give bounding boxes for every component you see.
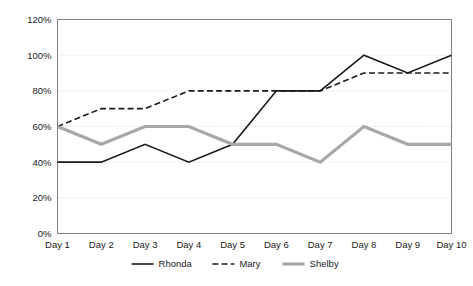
- y-tick-label: 20%: [32, 192, 52, 203]
- legend-label-rhonda: Rhonda: [159, 258, 193, 269]
- x-tick-label: Day 2: [89, 239, 114, 250]
- y-tick-label: 100%: [27, 50, 52, 61]
- line-chart: 0%20%40%60%80%100%120% Day 1Day 2Day 3Da…: [0, 0, 473, 286]
- x-tick-label: Day 9: [395, 239, 420, 250]
- x-tick-label: Day 1: [45, 239, 70, 250]
- chart-container: 0%20%40%60%80%100%120% Day 1Day 2Day 3Da…: [0, 0, 473, 286]
- y-tick-label: 80%: [32, 85, 52, 96]
- x-tick-label: Day 8: [352, 239, 377, 250]
- y-tick-label: 0%: [38, 228, 52, 239]
- x-tick-label: Day 7: [308, 239, 333, 250]
- y-tick-label: 40%: [32, 157, 52, 168]
- x-tick-label: Day 10: [436, 239, 466, 250]
- legend-label-shelby: Shelby: [310, 258, 339, 269]
- x-tick-label: Day 4: [176, 239, 201, 250]
- y-tick-label: 120%: [27, 14, 52, 25]
- x-tick-label: Day 5: [220, 239, 245, 250]
- y-tick-label: 60%: [32, 121, 52, 132]
- x-tick-label: Day 6: [264, 239, 289, 250]
- x-tick-label: Day 3: [133, 239, 158, 250]
- legend-label-mary: Mary: [239, 258, 260, 269]
